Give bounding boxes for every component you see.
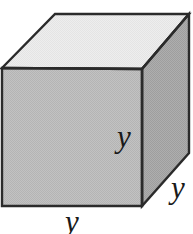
edge-label-width: y <box>65 206 79 234</box>
cube-edge-front-top <box>2 68 142 69</box>
cube-figure: y y y <box>0 0 193 234</box>
edge-label-height: y <box>117 121 131 152</box>
cube-drawing <box>0 0 193 234</box>
edge-label-depth: y <box>171 172 185 203</box>
